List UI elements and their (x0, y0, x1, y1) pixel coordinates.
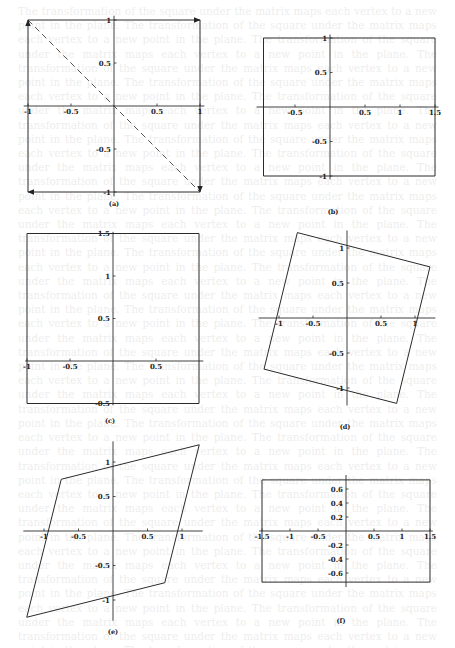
y-tick-label: -0.5 (329, 349, 344, 358)
y-tick-label: 0.5 (98, 314, 110, 323)
y-tick-label: 0.5 (332, 279, 344, 288)
x-tick-label: 1 (400, 532, 405, 541)
panel-c: -1-0.50.51.510.5-0.5(c) (23, 229, 203, 425)
x-tick-label: -0.5 (71, 532, 86, 541)
x-tick-label: 0.5 (368, 532, 380, 541)
y-tick-label: -0.5 (95, 561, 110, 570)
panel-caption: (c) (105, 417, 115, 425)
x-tick-label: -0.5 (287, 108, 302, 117)
panel-caption: (e) (108, 628, 118, 636)
y-tick-label: -0.5 (312, 137, 327, 146)
x-tick-label: -0.5 (62, 362, 77, 371)
figure-panels: -1-0.50.5110.5-0.5-1(a)-0.50.511.510.5-0… (0, 0, 455, 648)
panel-b: -0.50.511.510.5-0.5-1(b) (257, 34, 442, 217)
y-tick-label: 1 (105, 272, 110, 281)
panel-d: -1-0.50.5110.5-0.5-1(d) (259, 231, 436, 432)
y-tick-label: 0.5 (99, 59, 111, 68)
y-tick-label: -0.2 (328, 541, 343, 550)
panel-e: -1-0.50.5110.5-0.5-1(e) (23, 441, 202, 636)
panel-caption: (b) (328, 208, 339, 216)
y-tick-label: 0.5 (315, 68, 327, 77)
y-tick-label: 1 (105, 458, 110, 467)
x-tick-label: 0.5 (151, 107, 163, 116)
y-tick-label: 0.6 (331, 485, 343, 494)
x-tick-label: 0.5 (359, 108, 371, 117)
panel-caption: (a) (109, 200, 119, 208)
x-tick-label: -0.5 (305, 319, 320, 328)
y-tick-label: -0.6 (328, 569, 343, 578)
x-tick-label: 0.5 (375, 319, 387, 328)
x-tick-label: -0.5 (310, 532, 325, 541)
y-tick-label: 0.4 (331, 499, 343, 508)
y-tick-label: -0.5 (96, 145, 111, 154)
panel-a: -1-0.50.5110.5-0.5-1(a) (24, 16, 205, 209)
x-tick-label: 0.5 (150, 362, 162, 371)
y-tick-label: -0.4 (328, 555, 343, 564)
panel-caption: (d) (340, 423, 351, 431)
panel-f: -1.5-1-0.50.511.50.60.40.2-0.2-0.4-0.6(f… (254, 475, 436, 625)
x-tick-label: 0.5 (141, 532, 153, 541)
y-tick-label: 0.5 (98, 492, 110, 501)
x-tick-label: -0.5 (63, 107, 78, 116)
x-tick-label: 1 (180, 532, 185, 541)
x-tick-label: 1 (398, 108, 403, 117)
x-tick-label: -1 (286, 532, 294, 541)
y-tick-label: 0.2 (331, 513, 343, 522)
panel-caption: (f) (337, 617, 346, 625)
